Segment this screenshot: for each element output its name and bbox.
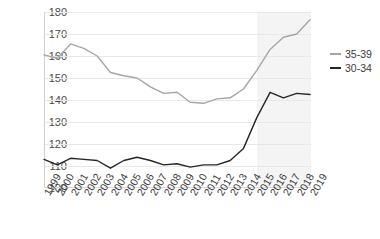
series-line-30-34 (44, 92, 310, 168)
line-chart: 100110120130140150160170180 199920002001… (0, 0, 380, 239)
legend-item-35-39[interactable]: 35-39 (330, 47, 372, 61)
series-lines (44, 12, 311, 188)
legend-label-30-34: 30-34 (345, 62, 372, 74)
legend: 35-39 30-34 (330, 47, 372, 75)
series-line-35-39 (44, 20, 310, 104)
legend-item-30-34[interactable]: 30-34 (330, 61, 372, 75)
legend-swatch-35-39 (330, 53, 341, 55)
legend-swatch-30-34 (330, 67, 341, 69)
plot-area (44, 12, 311, 188)
legend-label-35-39: 35-39 (345, 48, 372, 60)
